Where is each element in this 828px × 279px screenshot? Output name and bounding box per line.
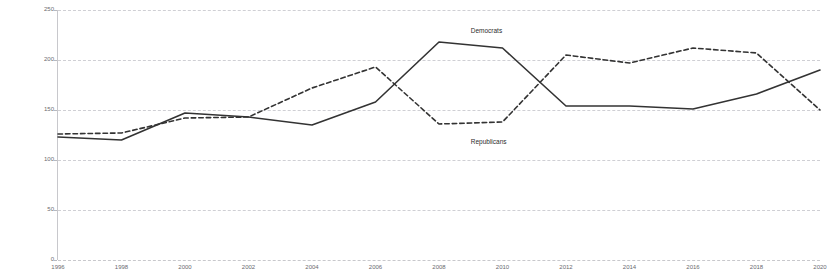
chart-container: Millions 050100150200250 199619982000200… bbox=[0, 0, 828, 279]
series-label-republicans: Republicans bbox=[471, 138, 507, 145]
series-line-democrats bbox=[58, 42, 820, 140]
series-line-republicans bbox=[58, 48, 820, 134]
series-label-democrats: Democrats bbox=[471, 27, 502, 34]
series-lines bbox=[0, 0, 828, 279]
